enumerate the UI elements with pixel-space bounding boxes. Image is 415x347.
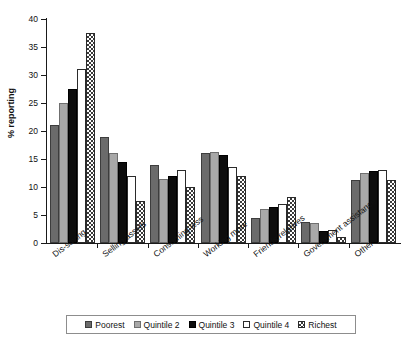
bar [387, 180, 396, 243]
y-axis-tick-label: 35 [18, 43, 38, 52]
y-axis-tick-label: 0 [18, 239, 38, 248]
chart-legend: PoorestQuintile 2Quintile 3Quintile 4Ric… [66, 315, 356, 334]
legend-item: Quintile 4 [243, 320, 289, 330]
bar [50, 125, 59, 243]
y-axis-label-container: % reporting [2, 0, 16, 243]
bar [77, 69, 86, 243]
y-axis-tick-label: 20 [18, 127, 38, 136]
bar [86, 33, 95, 243]
x-axis-tick [148, 243, 149, 248]
y-axis-tick-label: 15 [18, 155, 38, 164]
bar [201, 153, 210, 243]
x-axis-tick [198, 243, 199, 248]
bar [59, 103, 68, 243]
y-axis-tick-label: 10 [18, 183, 38, 192]
x-axis-tick [248, 243, 249, 248]
bar [150, 165, 159, 243]
x-axis-tick [349, 243, 350, 248]
bar [378, 170, 387, 243]
legend-swatch-quintile-4 [243, 321, 250, 328]
bar [210, 152, 219, 243]
bar-group [301, 19, 346, 243]
bar [337, 237, 346, 243]
bar [109, 153, 118, 243]
legend-swatch-richest [298, 321, 305, 328]
bar-group [201, 19, 246, 243]
bar [301, 222, 310, 243]
x-axis-tick [97, 243, 98, 248]
legend-swatch-poorest [85, 321, 92, 328]
legend-swatch-quintile-2 [134, 321, 141, 328]
legend-item: Quintile 2 [134, 320, 180, 330]
legend-item-label: Poorest [95, 320, 124, 330]
legend-item-label: Richest [308, 320, 336, 330]
legend-item: Quintile 3 [189, 320, 235, 330]
plot-area [47, 19, 399, 243]
x-axis-tick [298, 243, 299, 248]
legend-swatch-quintile-3 [189, 321, 196, 328]
y-axis-tick [41, 243, 47, 244]
bar-group [100, 19, 145, 243]
y-axis-tick-label: 30 [18, 71, 38, 80]
bar-group [50, 19, 95, 243]
bar-chart: % reporting 0510152025303540 Dis-savingS… [0, 0, 415, 347]
legend-item: Poorest [85, 320, 124, 330]
bar-group [150, 19, 195, 243]
legend-item: Richest [298, 320, 336, 330]
bar [68, 89, 77, 243]
bar-group [251, 19, 296, 243]
legend-item-label: Quintile 3 [199, 320, 235, 330]
y-axis-tick-label: 5 [18, 211, 38, 220]
bar [219, 155, 228, 243]
bar [159, 179, 168, 243]
legend-item-label: Quintile 4 [253, 320, 289, 330]
legend-item-label: Quintile 2 [144, 320, 180, 330]
y-axis-tick-label: 25 [18, 99, 38, 108]
bar [100, 137, 109, 243]
y-axis-tick-label: 40 [18, 15, 38, 24]
y-axis-label: % reporting [6, 48, 16, 178]
bar [251, 218, 260, 243]
